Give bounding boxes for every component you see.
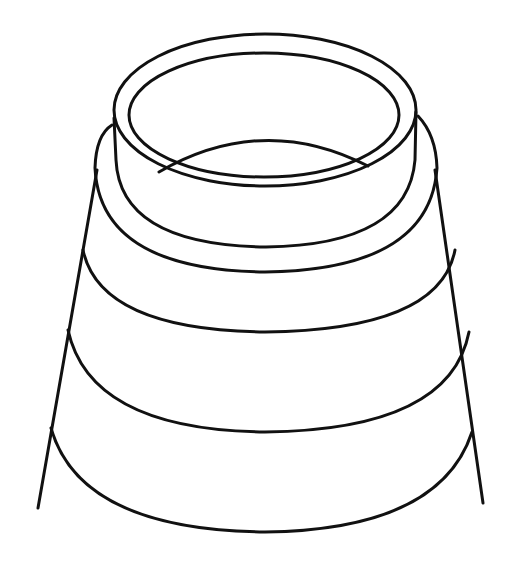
inner-rim [129, 53, 399, 177]
left-side [38, 170, 97, 508]
cone-stack-drawing [0, 0, 516, 562]
band-2 [68, 330, 469, 432]
band-1 [83, 250, 455, 332]
right-side [435, 170, 483, 503]
outer-rim [114, 34, 416, 186]
band-3 [51, 428, 472, 532]
collar [114, 112, 416, 247]
